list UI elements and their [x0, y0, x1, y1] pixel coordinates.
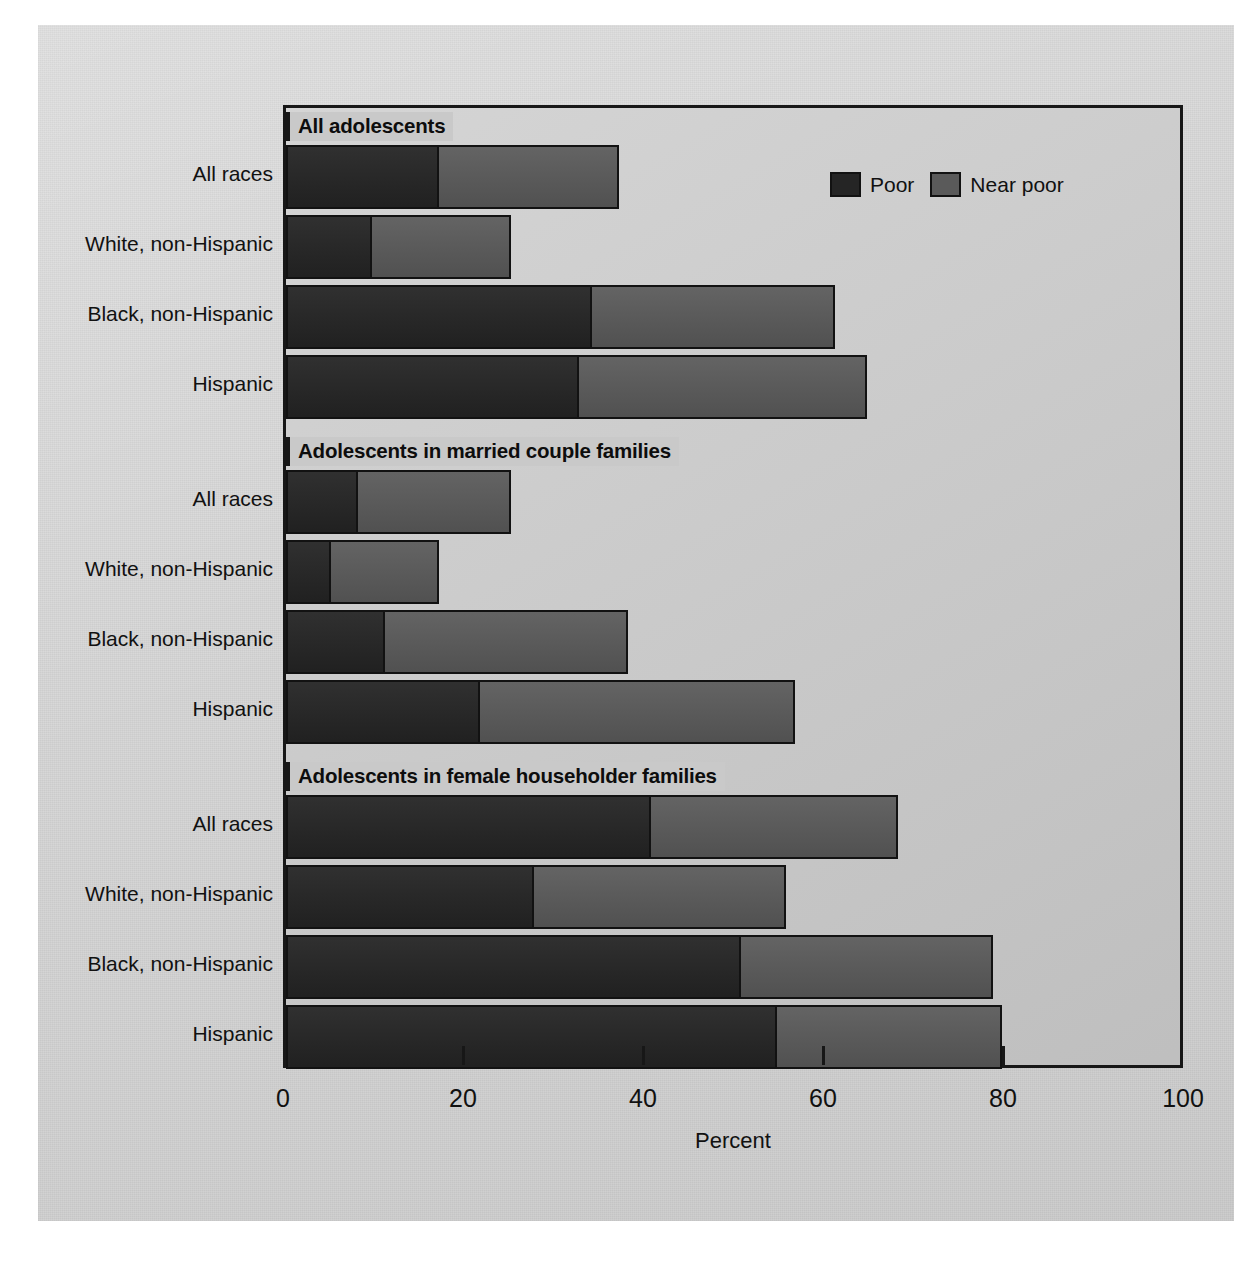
bar-row	[286, 865, 1186, 929]
bar-segment-near-poor	[649, 795, 899, 859]
y-axis-label: Black, non-Hispanic	[87, 302, 273, 326]
bar-segment-near-poor	[775, 1005, 1002, 1069]
bar-row	[286, 1005, 1186, 1069]
bar-segment-poor	[286, 865, 534, 929]
bar-segment-poor	[286, 285, 592, 349]
y-axis-label: White, non-Hispanic	[85, 232, 273, 256]
y-axis-label: Hispanic	[192, 372, 273, 396]
y-axis-label: Hispanic	[192, 697, 273, 721]
y-axis-label: All races	[192, 812, 273, 836]
chart-plot-area: All adolescentsAdolescents in married co…	[283, 105, 1183, 1068]
bar-segment-poor	[286, 610, 385, 674]
y-axis-category-labels: All racesWhite, non-HispanicBlack, non-H…	[20, 105, 273, 1068]
bar-segment-near-poor	[356, 470, 511, 534]
y-axis-label: Hispanic	[192, 1022, 273, 1046]
y-axis-label: White, non-Hispanic	[85, 882, 273, 906]
bar-segment-near-poor	[478, 680, 795, 744]
bar-segment-poor	[286, 935, 741, 999]
group-header-1: Adolescents in married couple families	[286, 437, 679, 466]
bar-segment-near-poor	[370, 215, 512, 279]
group-header-0: All adolescents	[286, 112, 453, 141]
bar-segment-near-poor	[329, 540, 439, 604]
legend-item-poor: Poor	[830, 172, 914, 197]
bar-segment-poor	[286, 795, 651, 859]
bar-segment-near-poor	[383, 610, 628, 674]
bar-row	[286, 355, 1186, 419]
bar-row	[286, 935, 1186, 999]
bar-segment-near-poor	[532, 865, 786, 929]
bar-segment-near-poor	[577, 355, 867, 419]
bar-segment-poor	[286, 1005, 777, 1069]
x-axis-tick-label: 100	[1162, 1084, 1204, 1113]
x-axis-tick	[1002, 1046, 1005, 1065]
legend-item-near-poor: Near poor	[930, 172, 1063, 197]
bar-segment-poor	[286, 680, 480, 744]
y-axis-label: Black, non-Hispanic	[87, 952, 273, 976]
x-axis-tick-label: 60	[809, 1084, 837, 1113]
bar-row	[286, 610, 1186, 674]
legend-label-poor: Poor	[870, 173, 914, 197]
x-axis-tick	[462, 1046, 465, 1065]
bar-row	[286, 215, 1186, 279]
x-axis-tick	[642, 1046, 645, 1065]
legend-label-near-poor: Near poor	[970, 173, 1063, 197]
x-axis-tick	[822, 1046, 825, 1065]
bar-segment-near-poor	[437, 145, 619, 209]
x-axis-tick-label: 20	[449, 1084, 477, 1113]
x-axis-tick-label: 40	[629, 1084, 657, 1113]
bar-segment-poor	[286, 470, 358, 534]
x-axis-tick-label: 80	[989, 1084, 1017, 1113]
bar-segment-poor	[286, 355, 579, 419]
bar-row	[286, 680, 1186, 744]
bar-row	[286, 795, 1186, 859]
bar-segment-poor	[286, 145, 439, 209]
bar-row	[286, 470, 1186, 534]
y-axis-label: Black, non-Hispanic	[87, 627, 273, 651]
x-axis-title: Percent	[283, 1128, 1183, 1154]
x-axis-tick-label: 0	[276, 1084, 290, 1113]
bar-row	[286, 285, 1186, 349]
bar-segment-poor	[286, 540, 331, 604]
y-axis-label: All races	[192, 162, 273, 186]
group-header-2: Adolescents in female householder famili…	[286, 762, 725, 791]
bar-segment-poor	[286, 215, 372, 279]
bar-row	[286, 540, 1186, 604]
y-axis-label: White, non-Hispanic	[85, 557, 273, 581]
bar-segment-near-poor	[739, 935, 993, 999]
legend-swatch-near-poor-icon	[930, 172, 961, 197]
y-axis-label: All races	[192, 487, 273, 511]
bar-segment-near-poor	[590, 285, 835, 349]
chart-legend: Poor Near poor	[830, 172, 1064, 197]
legend-swatch-poor-icon	[830, 172, 861, 197]
